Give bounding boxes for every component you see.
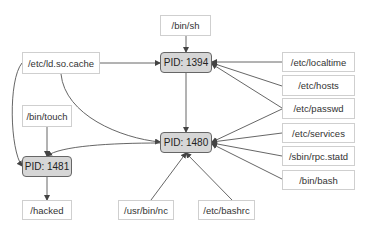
process-node-1481[interactable]: PID: 1481 <box>22 156 72 177</box>
edge-bashrc-1480 <box>186 153 232 200</box>
file-node-hosts[interactable]: /etc/hosts <box>282 75 355 96</box>
provenance-graph: PID: 1394 PID: 1480 PID: 1481 /bin/sh /e… <box>0 0 365 230</box>
file-node-passwd[interactable]: /etc/passwd <box>282 98 355 119</box>
edge-hosts-1394 <box>212 63 282 86</box>
edge-1480-1481 <box>47 143 160 156</box>
file-node-hacked[interactable]: /hacked <box>22 200 72 220</box>
file-node-usr-bin-nc[interactable]: /usr/bin/nc <box>118 200 174 220</box>
file-node-bashrc[interactable]: /etc/bashrc <box>198 200 255 220</box>
file-node-bin-touch[interactable]: /bin/touch <box>22 105 72 127</box>
file-node-rpc-statd[interactable]: /sbin/rpc.statd <box>282 146 355 166</box>
edge-passwd-1394 <box>212 64 282 108</box>
edge-nc-1480 <box>151 153 186 200</box>
edge-ldcache-1480 <box>61 74 160 142</box>
file-node-ld-so-cache[interactable]: /etc/ld.so.cache <box>22 52 100 74</box>
file-node-localtime[interactable]: /etc/localtime <box>282 52 355 72</box>
file-node-services[interactable]: /etc/services <box>282 123 355 143</box>
process-node-1480[interactable]: PID: 1480 <box>160 132 212 153</box>
file-node-bin-bash[interactable]: /bin/bash <box>282 170 355 190</box>
edge-ldcache-1481 <box>12 63 22 166</box>
file-node-bin-sh[interactable]: /bin/sh <box>160 15 211 36</box>
process-node-1394[interactable]: PID: 1394 <box>160 52 212 73</box>
